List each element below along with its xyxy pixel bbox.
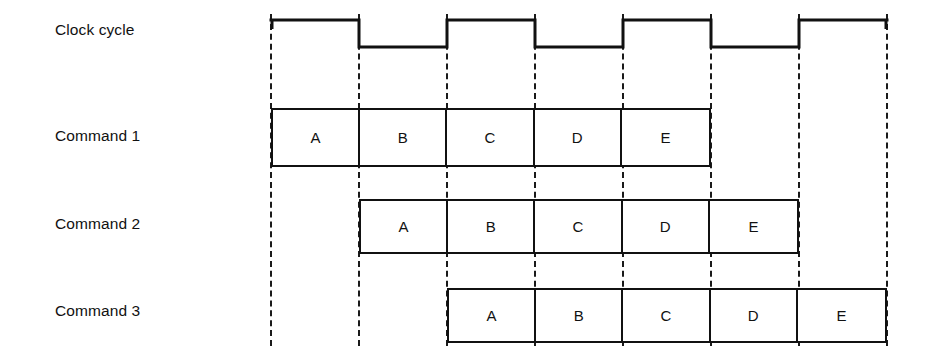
cycle-boundary-guide-1	[358, 14, 360, 346]
command-1-stage-cell: A	[273, 110, 360, 165]
timing-diagram: Clock cycle Command 1 Command 2 Command …	[0, 0, 927, 354]
clock-waveform	[0, 0, 927, 60]
command-3-stage-cell: D	[711, 290, 798, 341]
command-3-stage-cell: C	[623, 290, 710, 341]
command-2-stage-cell: D	[623, 201, 710, 252]
command-1-stage-cell: C	[447, 110, 534, 165]
command-2-stage-cell: B	[448, 201, 535, 252]
cycle-boundary-guide-0	[270, 14, 272, 346]
command-track-2: ABCDE	[359, 199, 799, 254]
command-1-stage-cell: E	[622, 110, 709, 165]
command-track-3: ABCDE	[447, 288, 887, 343]
command-3-stage-cell: E	[798, 290, 885, 341]
command-2-stage-cell: A	[361, 201, 448, 252]
command-2-stage-cell: C	[535, 201, 622, 252]
row-label-command-3: Command 3	[55, 302, 140, 320]
row-label-command-1: Command 1	[55, 127, 140, 145]
command-1-stage-cell: B	[360, 110, 447, 165]
command-track-1: ABCDE	[271, 108, 711, 167]
command-2-stage-cell: E	[710, 201, 797, 252]
row-label-command-2: Command 2	[55, 215, 140, 233]
command-3-stage-cell: B	[536, 290, 623, 341]
command-3-stage-cell: A	[449, 290, 536, 341]
command-1-stage-cell: D	[535, 110, 622, 165]
